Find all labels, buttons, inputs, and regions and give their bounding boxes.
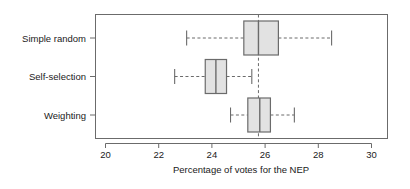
box-iqr <box>244 21 279 55</box>
x-axis-tick-label-1: 22 <box>153 149 164 160</box>
x-axis-tick-label-2: 24 <box>207 149 218 160</box>
x-axis-tick-label-5: 30 <box>366 149 377 160</box>
category-label-1: Self-selection <box>29 71 86 82</box>
category-label-0: Simple random <box>22 33 86 44</box>
boxplot-chart: Simple random Self-selection Weighting 2… <box>0 0 410 189</box>
x-axis-tick-label-4: 28 <box>313 149 324 160</box>
x-axis-title: Percentage of votes for the NEP <box>173 164 309 175</box>
x-axis-tick-label-3: 26 <box>260 149 271 160</box>
category-label-2: Weighting <box>44 110 86 121</box>
x-axis-tick-label-0: 20 <box>100 149 111 160</box>
chart-background <box>0 0 410 189</box>
boxplot-svg: Simple random Self-selection Weighting 2… <box>0 0 410 189</box>
